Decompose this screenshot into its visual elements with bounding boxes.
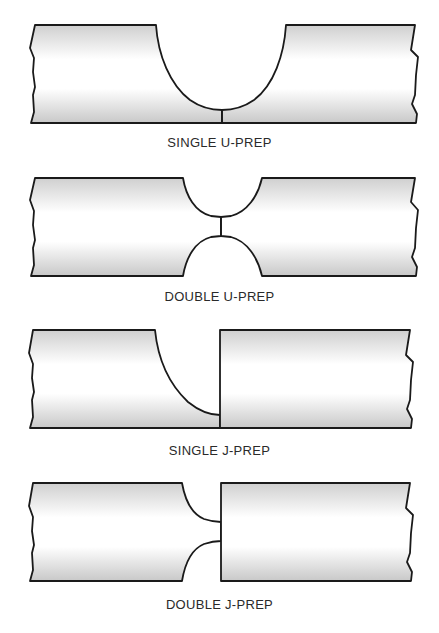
left-plate [30,25,222,123]
single-j-prep-figure [29,330,413,428]
left-plate-j-groove [29,330,220,428]
right-plate-square [220,330,413,428]
single-u-prep-figure [30,25,418,123]
double-j-prep-figure [29,483,413,581]
right-plate [221,178,418,276]
left-plate [30,178,221,276]
single-u-prep-label: SINGLE U-PREP [0,135,439,150]
single-j-prep-label: SINGLE J-PREP [0,443,439,458]
double-u-prep-figure [30,178,418,276]
right-plate-square [221,483,413,581]
double-u-prep-label: DOUBLE U-PREP [0,289,439,304]
left-plate-double-j [29,483,221,581]
right-plate [222,25,418,123]
weld-prep-diagram [0,0,439,633]
double-j-prep-label: DOUBLE J-PREP [0,597,439,612]
